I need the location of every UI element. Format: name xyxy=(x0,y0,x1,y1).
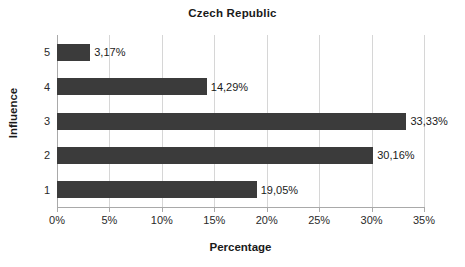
y-axis-tick-label: 1 xyxy=(32,184,50,196)
x-axis-tick xyxy=(214,208,215,212)
x-axis-tick-label: 15% xyxy=(192,214,236,226)
bar-chart: Czech Republic Influence 19,05%30,16%33,… xyxy=(0,0,465,267)
x-axis-tick-label: 10% xyxy=(140,214,184,226)
y-axis-tick-label: 4 xyxy=(32,81,50,93)
chart-title: Czech Republic xyxy=(0,7,465,19)
x-axis-tick-label: 0% xyxy=(35,214,79,226)
x-axis-tick xyxy=(372,208,373,212)
x-axis-tick xyxy=(109,208,110,212)
x-axis-tick xyxy=(319,208,320,212)
bar xyxy=(57,147,373,164)
bar-value-label: 14,29% xyxy=(211,81,248,93)
bar-value-label: 3,17% xyxy=(94,46,125,58)
bar-value-label: 33,33% xyxy=(410,115,447,127)
bar-value-label: 19,05% xyxy=(261,184,298,196)
bar xyxy=(57,181,257,198)
x-axis-tick-label: 30% xyxy=(350,214,394,226)
x-axis-tick-label: 5% xyxy=(87,214,131,226)
bar xyxy=(57,78,207,95)
x-axis-title: Percentage xyxy=(57,241,424,253)
x-axis-tick xyxy=(267,208,268,212)
y-axis-tick-label: 5 xyxy=(32,46,50,58)
x-axis-tick-label: 35% xyxy=(402,214,446,226)
y-axis-tick-label: 3 xyxy=(32,115,50,127)
plot-area: 19,05%30,16%33,33%14,29%3,17% xyxy=(57,35,424,207)
bar xyxy=(57,44,90,61)
x-axis-tick-label: 25% xyxy=(297,214,341,226)
bar xyxy=(57,113,406,130)
x-axis-tick xyxy=(57,208,58,212)
x-axis-tick xyxy=(424,208,425,212)
x-axis-tick xyxy=(162,208,163,212)
y-axis-tick-label: 2 xyxy=(32,149,50,161)
bar-value-label: 30,16% xyxy=(377,149,414,161)
x-axis-line xyxy=(57,207,425,208)
x-axis-tick-label: 20% xyxy=(245,214,289,226)
y-axis-title: Influence xyxy=(7,73,19,153)
